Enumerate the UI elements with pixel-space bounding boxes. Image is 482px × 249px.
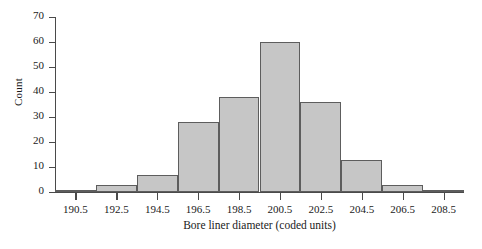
y-axis-tick-label: 70 [33,9,44,21]
x-axis-title: Bore liner diameter (coded units) [55,219,464,231]
histogram-bar [55,190,96,193]
x-axis-tick [321,193,322,200]
y-axis-tick-label: 30 [33,109,44,121]
x-axis-tick [75,193,76,200]
x-axis-tick-label: 194.5 [145,203,170,215]
histogram-bar [137,175,178,193]
y-axis-tick-label: 60 [33,34,44,46]
y-axis-tick-label: 10 [33,159,44,171]
histogram-bar [219,97,260,192]
histogram-bar [96,185,137,193]
x-axis-tick-label: 192.5 [104,203,129,215]
histogram-bar [178,122,219,192]
y-axis-tick-label: 20 [33,134,44,146]
x-axis-tick [403,193,404,200]
histogram-bars [55,17,464,193]
histogram-bar [260,42,301,192]
x-axis-tick [239,193,240,200]
histogram-bar [423,190,464,193]
x-axis-tick-label: 198.5 [227,203,252,215]
x-axis-tick-label: 196.5 [186,203,211,215]
x-axis-tick-label: 200.5 [268,203,293,215]
histogram-bar [341,160,382,193]
x-axis-tick [444,193,445,200]
plot-area: 010203040506070 190.5192.5194.5196.5198.… [55,17,464,193]
x-axis-tick-label: 202.5 [308,203,333,215]
caption-remnant: — [8,243,17,249]
y-axis-tick-label: 0 [39,184,45,196]
x-axis-tick [198,193,199,200]
x-axis-tick-label: 206.5 [390,203,415,215]
histogram-figure: Count 010203040506070 190.5192.5194.5196… [0,0,482,249]
x-axis-tick [157,193,158,200]
x-axis-tick [280,193,281,200]
histogram-bar [382,185,423,193]
y-axis-tick-label: 40 [33,84,44,96]
x-axis-tick-label: 204.5 [349,203,374,215]
x-axis-tick-label: 208.5 [431,203,456,215]
x-axis-tick [362,193,363,200]
y-axis-tick-label: 50 [33,59,44,71]
x-axis-tick-label: 190.5 [63,203,88,215]
x-axis-tick [116,193,117,200]
y-axis-title: Count [12,52,24,132]
histogram-bar [300,102,341,192]
